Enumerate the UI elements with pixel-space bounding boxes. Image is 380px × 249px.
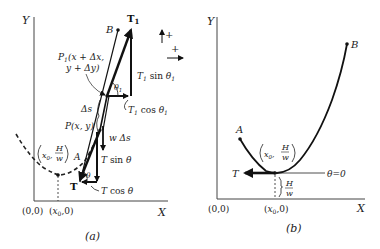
- point-B-dot-a: [116, 28, 120, 32]
- svg-text:x0,: x0,: [264, 150, 275, 160]
- vertex-label-b: x0, H w: [260, 143, 295, 162]
- P1-label-line1: P1(x + Δx,: [57, 52, 104, 63]
- T1-sin-label: T1 sin θ1: [137, 71, 175, 82]
- x-axis-label-b: X: [356, 202, 366, 215]
- sign-convention: + +: [162, 29, 183, 58]
- catenary-curve-b: [240, 44, 347, 173]
- x0-tick-label-a: (x0,0): [49, 206, 74, 217]
- y-axis-label-b: Y: [207, 15, 216, 28]
- caption-a: (a): [85, 230, 100, 243]
- T-label-a: T: [70, 181, 78, 192]
- svg-text:w: w: [286, 189, 293, 198]
- theta-zero-label: θ=0: [327, 169, 346, 179]
- weight-label: w Δs: [109, 133, 131, 143]
- svg-text:w: w: [282, 153, 289, 162]
- T1-label: T1: [127, 13, 139, 26]
- svg-text:H: H: [285, 179, 294, 188]
- T-label-b: T: [232, 168, 240, 179]
- panel-a: Y X (0,0) (x0,0) (a) x0, H w B T1 T1 sin…: [16, 13, 183, 243]
- point-A-label-a: A: [73, 152, 81, 162]
- T-cos-label: T cos θ: [101, 186, 134, 196]
- theta1-label: θ1: [114, 83, 122, 93]
- vertex-label-a: x0, H w: [38, 144, 68, 163]
- sign-right: +: [171, 43, 179, 54]
- point-B-label-a: B: [105, 24, 113, 35]
- x0-tick-label-b: (x0,0): [264, 204, 289, 215]
- panel-b: Y X (0,0) (x0,0) (b) A B x0, H w T θ=0 H: [207, 15, 366, 235]
- P1-label-line2: y + Δy): [65, 63, 100, 73]
- point-A-dot-b: [238, 137, 242, 141]
- point-P-label: P(x, y): [64, 121, 94, 131]
- svg-text:w: w: [56, 154, 63, 163]
- svg-text:H: H: [281, 143, 290, 152]
- T1-cos-label: T1 cos θ1: [128, 105, 168, 116]
- point-B-dot-b: [345, 42, 349, 46]
- caption-b: (b): [286, 222, 302, 235]
- catenary-figure: Y X (0,0) (x0,0) (a) x0, H w B T1 T1 sin…: [0, 0, 380, 249]
- origin-label-b: (0,0): [208, 204, 229, 214]
- point-B-label-b: B: [350, 39, 358, 50]
- y-axis-label-a: Y: [22, 14, 31, 27]
- delta-s-label: Δs: [80, 104, 92, 114]
- height-label-b: H w: [285, 179, 294, 198]
- sign-up: +: [165, 29, 173, 40]
- origin-label-a: (0,0): [22, 206, 43, 216]
- theta-label: θ: [86, 171, 91, 180]
- point-A-label-b: A: [235, 124, 243, 135]
- svg-text:x0,: x0,: [42, 151, 53, 161]
- x-axis-label-a: X: [157, 206, 167, 219]
- svg-text:H: H: [55, 144, 64, 153]
- T-sin-label: T sin θ: [101, 155, 132, 165]
